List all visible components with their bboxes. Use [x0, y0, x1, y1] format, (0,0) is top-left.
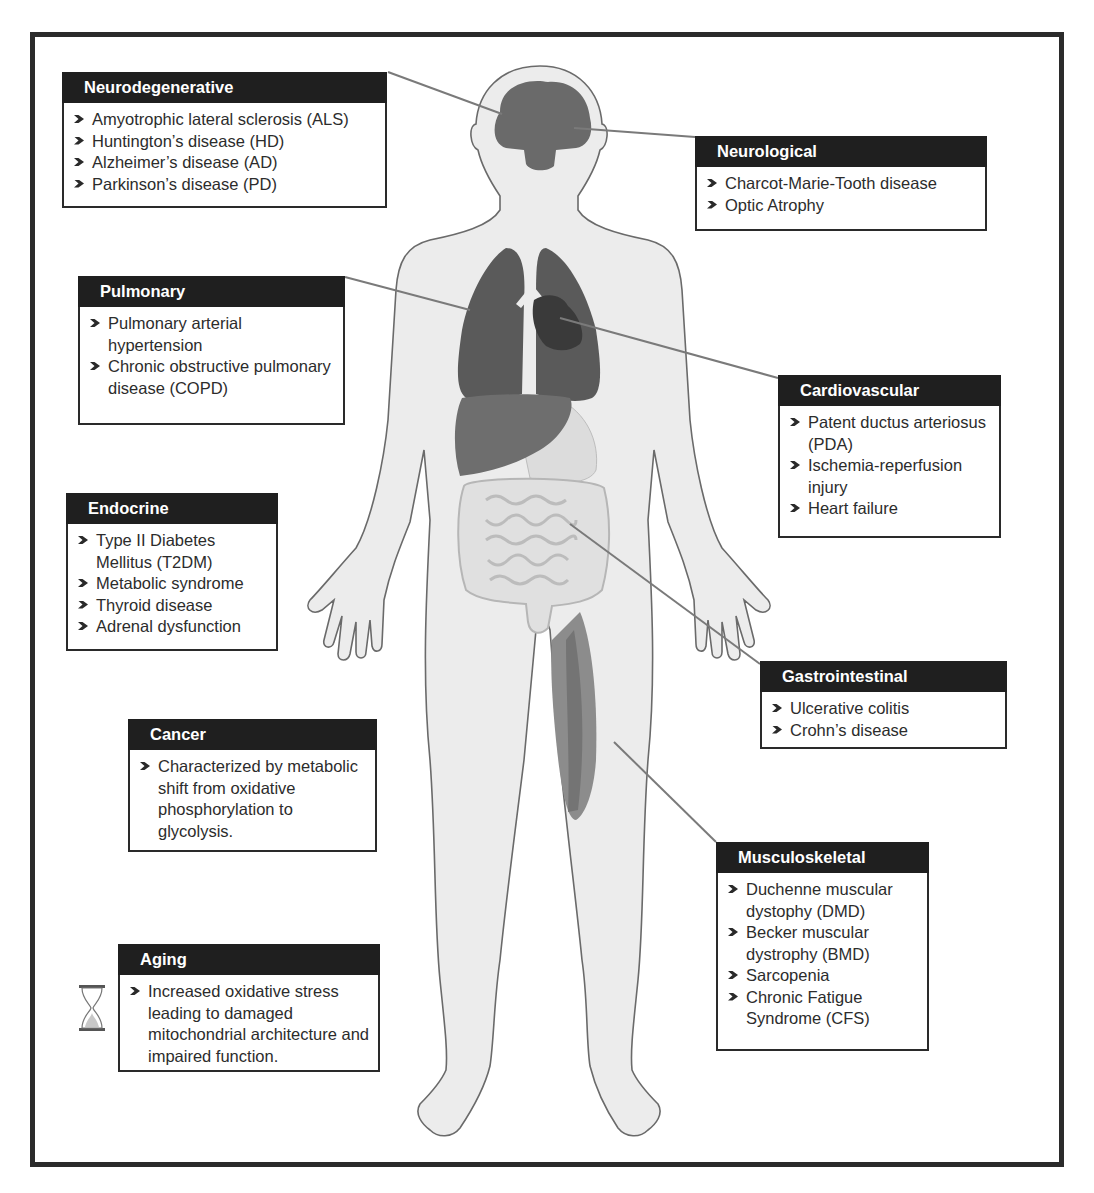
category-aging: Aging Increased oxidative stress leading… — [118, 944, 380, 1072]
list-item: Duchenne muscular dystophy (DMD) — [728, 879, 921, 922]
category-neurodegenerative: Neurodegenerative Amyotrophic lateral sc… — [62, 72, 387, 208]
list-item: Charcot-Marie-Tooth disease — [707, 173, 979, 195]
list-item: Thyroid disease — [78, 595, 270, 617]
category-title: Endocrine — [66, 493, 278, 524]
category-gastrointestinal: Gastrointestinal Ulcerative colitis Croh… — [760, 661, 1007, 749]
list-item: Increased oxidative stress leading to da… — [130, 981, 372, 1067]
list-item: Chronic obstructive pulmonary disease (C… — [90, 356, 337, 399]
category-title: Gastrointestinal — [760, 661, 1007, 692]
list-item: Optic Atrophy — [707, 195, 979, 217]
list-item: Sarcopenia — [728, 965, 921, 987]
list-item: Pulmonary arterial hypertension — [90, 313, 337, 356]
list-item: Crohn’s disease — [772, 720, 999, 742]
list-item: Adrenal dysfunction — [78, 616, 270, 638]
category-title: Cardiovascular — [778, 375, 1001, 406]
list-item: Parkinson’s disease (PD) — [74, 174, 379, 196]
category-title: Musculoskeletal — [716, 842, 929, 873]
list-item: Metabolic syndrome — [78, 573, 270, 595]
list-item: Amyotrophic lateral sclerosis (ALS) — [74, 109, 379, 131]
hourglass-icon — [79, 985, 105, 1031]
category-neurological: Neurological Charcot-Marie-Tooth disease… — [695, 136, 987, 231]
category-title: Cancer — [128, 719, 377, 750]
list-item: Ischemia-reperfusion injury — [790, 455, 993, 498]
list-item: Chronic Fatigue Syndrome (CFS) — [728, 987, 921, 1030]
category-pulmonary: Pulmonary Pulmonary arterial hypertensio… — [78, 276, 345, 425]
list-item: Heart failure — [790, 498, 993, 520]
category-musculoskeletal: Musculoskeletal Duchenne muscular dystop… — [716, 842, 929, 1051]
list-item: Ulcerative colitis — [772, 698, 999, 720]
list-item: Alzheimer’s disease (AD) — [74, 152, 379, 174]
list-item: Huntington’s disease (HD) — [74, 131, 379, 153]
category-title: Pulmonary — [78, 276, 345, 307]
category-title: Aging — [118, 944, 380, 975]
list-item: Patent ductus arteriosus (PDA) — [790, 412, 993, 455]
category-title: Neurological — [695, 136, 987, 167]
list-item: Type II Diabetes Mellitus (T2DM) — [78, 530, 270, 573]
category-cardiovascular: Cardiovascular Patent ductus arteriosus … — [778, 375, 1001, 538]
category-title: Neurodegenerative — [62, 72, 387, 103]
category-cancer: Cancer Characterized by metabolic shift … — [128, 719, 377, 852]
list-item: Becker muscular dystrophy (BMD) — [728, 922, 921, 965]
category-endocrine: Endocrine Type II Diabetes Mellitus (T2D… — [66, 493, 278, 651]
list-item: Characterized by metabolic shift from ox… — [140, 756, 369, 842]
